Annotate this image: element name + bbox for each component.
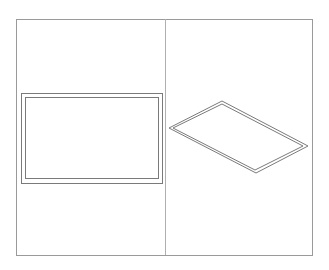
plate-iso-inner-edge bbox=[173, 104, 303, 170]
plate-inner-edge bbox=[26, 98, 159, 179]
drawing-sheet bbox=[0, 0, 329, 270]
plate-outer-edge bbox=[22, 94, 163, 184]
isometric-view bbox=[169, 101, 308, 173]
drawing-frame bbox=[17, 20, 313, 256]
front-view bbox=[22, 94, 163, 184]
